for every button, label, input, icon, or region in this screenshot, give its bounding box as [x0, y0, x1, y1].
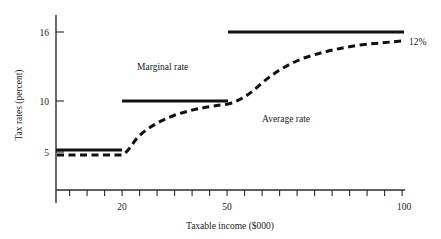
x-tick-label-20: 20 [117, 202, 127, 212]
tax-rates-chart: 16 10 5 Tax rates (percent) [0, 0, 441, 239]
y-tick-label-16: 16 [40, 28, 50, 38]
average-rate-endpoint-label: 12% [409, 37, 427, 47]
marginal-rate-label: Marginal rate [137, 62, 188, 72]
x-tick-label-50: 50 [222, 202, 232, 212]
y-axis-ticks [56, 32, 64, 152]
x-axis-title: Taxable income ($000) [186, 221, 274, 232]
chart-canvas: 16 10 5 Tax rates (percent) [0, 0, 441, 239]
average-rate-label: Average rate [262, 114, 310, 124]
x-axis-ticks [70, 190, 403, 196]
y-tick-label-10: 10 [40, 97, 50, 107]
x-tick-label-100: 100 [397, 202, 412, 212]
y-axis-title: Tax rates (percent) [14, 69, 25, 140]
average-rate-curve [57, 41, 402, 155]
marginal-rate-series [56, 32, 404, 150]
y-tick-label-5: 5 [44, 148, 49, 158]
